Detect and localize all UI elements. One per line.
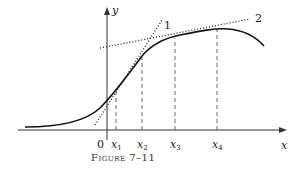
origin-label: 0 [97,139,104,150]
y-axis-arrow-icon [104,7,110,15]
tick-x1: x1 [111,139,122,152]
dashed-guides [116,29,217,130]
diagram-svg [0,0,303,170]
tangent-1-label: 1 [164,20,171,31]
x-axis-arrow-icon [279,127,287,133]
tick-x3: x3 [170,139,181,152]
tangent-line-1 [95,20,162,125]
tangent-2-label: 2 [255,13,262,24]
tick-x2: x2 [137,139,148,152]
figure-caption: Figure 7–11 [91,153,155,163]
tick-x4: x4 [212,139,223,152]
s-curve [25,29,264,127]
figure-7-11: y x 0 x1 x2 x3 x4 1 2 Figure 7–11 [0,0,303,170]
y-axis-label: y [112,5,118,16]
x-axis-label: x [281,140,287,151]
